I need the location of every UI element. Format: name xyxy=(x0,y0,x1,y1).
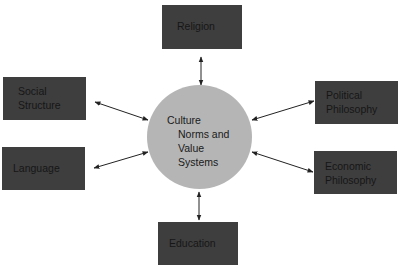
center-line-2: Norms and xyxy=(178,127,229,141)
center-line-1: Culture xyxy=(167,113,201,127)
node-religion-label: Religion xyxy=(177,19,215,33)
node-education: Education xyxy=(158,222,238,265)
arrow-language xyxy=(94,152,148,168)
node-social-structure-line-1: Social xyxy=(18,84,47,98)
node-economic-philosophy-line-1: Economic xyxy=(325,159,371,173)
node-language-label: Language xyxy=(13,161,60,175)
center-line-3: Value xyxy=(178,141,204,155)
node-economic-philosophy: Economic Philosophy xyxy=(314,151,397,194)
node-religion: Religion xyxy=(162,5,242,49)
node-political-philosophy-line-1: Political xyxy=(326,88,362,102)
node-political-philosophy: Political Philosophy xyxy=(315,81,398,124)
node-social-structure: Social Structure xyxy=(3,77,86,120)
node-economic-philosophy-line-2: Philosophy xyxy=(325,173,376,187)
arrow-political-philosophy xyxy=(252,101,314,120)
node-education-label: Education xyxy=(169,236,216,250)
arrow-social-structure xyxy=(95,102,148,120)
center-node-culture: Culture Norms and Value Systems xyxy=(147,85,252,189)
node-language: Language xyxy=(2,147,85,190)
node-social-structure-line-2: Structure xyxy=(18,98,61,112)
node-political-philosophy-line-2: Philosophy xyxy=(326,102,377,116)
center-line-4: Systems xyxy=(178,155,218,169)
arrow-economic-philosophy xyxy=(252,152,313,172)
